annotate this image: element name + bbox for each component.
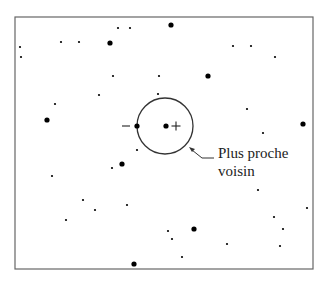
data-point [117,27,119,29]
data-point [19,46,21,48]
annotation-label-line2: voisin [218,163,255,179]
data-point-large [191,226,196,231]
data-point [282,228,284,230]
data-point [136,149,138,151]
data-point [181,256,183,258]
data-point [54,103,56,105]
data-point [273,216,275,218]
nearest-neighbor-diagram: Plus proche voisin [0,0,324,283]
data-point [51,175,53,177]
data-point [250,45,252,47]
data-point [226,243,228,245]
data-point [232,45,234,47]
data-point-large [131,261,136,266]
data-point [126,204,128,206]
data-point [167,230,169,232]
data-point [257,189,259,191]
data-point-large [44,117,49,122]
data-point [171,238,173,240]
data-point-large [300,121,305,126]
data-point-large [168,22,173,27]
data-point [112,75,114,77]
data-point [274,56,276,58]
data-point [279,245,281,247]
data-point [158,75,160,77]
data-point [262,132,264,134]
data-point [60,41,62,43]
plus-sign-icon [172,122,181,131]
data-point [82,199,84,201]
data-point [65,219,67,221]
data-point [111,167,113,169]
small-data-points [19,27,308,258]
data-point [94,209,96,211]
data-point [78,41,80,43]
diagram-frame [15,17,313,269]
nearest-neighbor-point [134,123,139,128]
data-point [246,108,248,110]
data-point [306,207,308,209]
annotation-pointer-line [192,150,214,158]
annotation-label-line1: Plus proche [218,145,289,161]
data-point [157,93,159,95]
data-point-large [107,40,112,45]
data-point-large [205,73,210,78]
data-point [20,56,22,58]
data-point [129,27,131,29]
data-point [98,94,100,96]
data-point-large [119,161,124,166]
query-point [163,123,168,128]
